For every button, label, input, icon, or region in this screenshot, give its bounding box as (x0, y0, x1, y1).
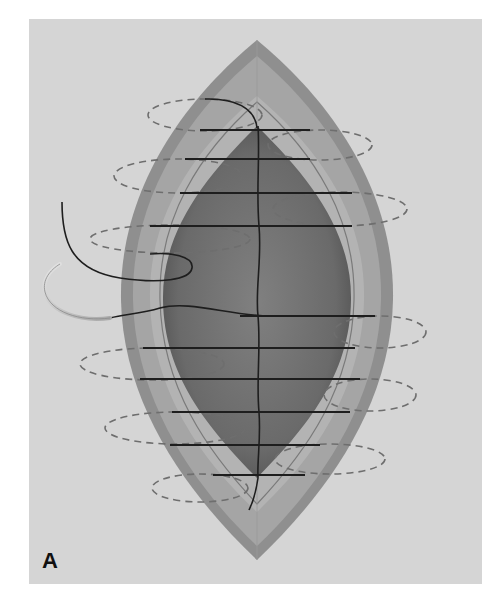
suture-figure: A (0, 0, 504, 603)
suture-illustration (0, 0, 504, 603)
panel-label: A (42, 548, 58, 574)
